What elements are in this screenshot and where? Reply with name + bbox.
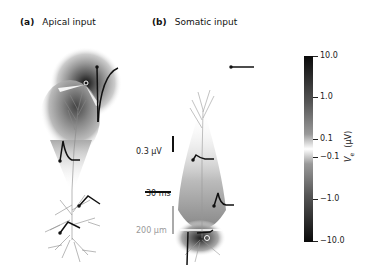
voltage-scale-label: 0.3 μV: [136, 147, 162, 156]
potential-field-soma: [174, 220, 226, 256]
colorbar-gradient: [304, 56, 313, 242]
colorbar-tick-label: 10.0: [320, 51, 338, 60]
time-scale-line: [145, 191, 171, 193]
panel-a-tag: (a): [20, 17, 34, 27]
length-scale-line: [172, 206, 174, 234]
colorbar-tick-label: −1.0: [320, 194, 339, 203]
colorbar-tick-label: 0.1: [320, 134, 333, 143]
colorbar-tick-label: −10.0: [320, 236, 345, 245]
time-scale-bar: 30 ms: [146, 181, 171, 200]
colorbar-label-sub: e: [348, 153, 355, 157]
voltage-scale-line: [172, 136, 174, 152]
apical-input-figure: [0, 30, 150, 277]
colorbar-tick-label: −0.1: [320, 152, 339, 161]
panel-b-title: Somatic input: [175, 17, 238, 27]
voltage-scale-bar: 0.3 μV: [136, 139, 162, 158]
colorbar-tick-label: 1.0: [320, 92, 333, 101]
colorbar-label-var: V: [344, 157, 353, 162]
colorbar-label-unit: (μV): [344, 131, 353, 148]
panel-a-label: (a)Apical input: [20, 17, 96, 27]
panel-a-title: Apical input: [42, 17, 95, 27]
length-scale-label: 200 μm: [136, 226, 167, 235]
panel-b-tag: (b): [152, 17, 167, 27]
colorbar-axis-label: Ve (μV): [344, 131, 355, 162]
panel-b-label: (b)Somatic input: [152, 17, 237, 27]
somatic-input-figure: [150, 30, 280, 277]
length-scale-bar: 200 μm: [136, 218, 167, 237]
colorbar: 10.0 1.0 0.1 −0.1 −1.0 −10.0 Ve (μV): [300, 56, 370, 246]
